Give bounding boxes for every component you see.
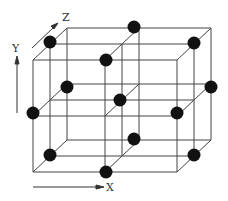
y-axis-label: Y bbox=[11, 42, 20, 55]
atom-dot bbox=[128, 133, 141, 146]
atom-dot bbox=[100, 54, 113, 67]
axis-arrows bbox=[15, 23, 104, 189]
atom-dot bbox=[114, 94, 127, 107]
atom-dot bbox=[27, 107, 40, 120]
atom-dot bbox=[188, 149, 201, 162]
atom-dot bbox=[171, 107, 184, 120]
atom-dot bbox=[188, 37, 201, 50]
z-axis-label: Z bbox=[62, 11, 70, 24]
atom-dot bbox=[100, 166, 113, 179]
x-axis-label: X bbox=[106, 181, 114, 194]
atom-dot bbox=[44, 36, 57, 49]
atom-dot bbox=[44, 149, 57, 162]
atom-dot bbox=[61, 81, 74, 94]
atom-dot bbox=[128, 21, 141, 34]
lattice-diagram: Y X Z bbox=[0, 0, 228, 201]
atom-dot bbox=[205, 81, 218, 94]
